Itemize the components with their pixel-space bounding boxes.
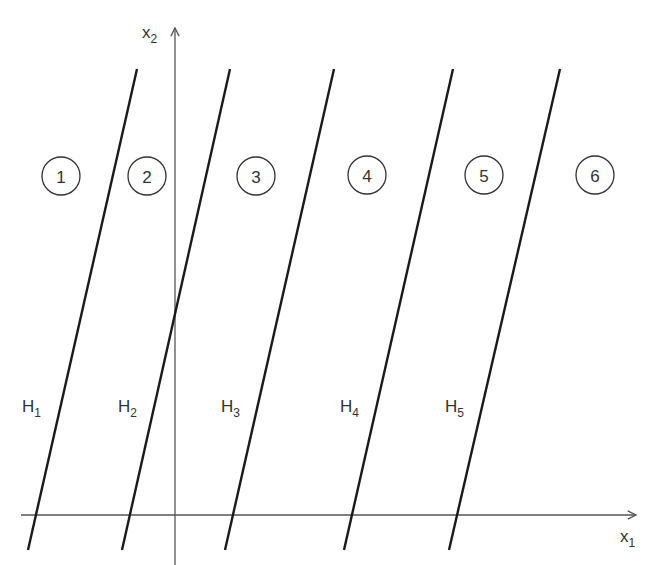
regions: 123456 <box>42 156 614 195</box>
hyperplane-label-h2: H2 <box>118 397 137 420</box>
region-marker-3: 3 <box>237 157 275 195</box>
axes <box>21 28 636 565</box>
region-number: 3 <box>251 168 260 187</box>
region-number: 6 <box>590 167 599 186</box>
x2-axis-label: x2 <box>142 23 158 46</box>
hyperplane-h4 <box>344 69 453 550</box>
region-number: 2 <box>142 168 151 187</box>
hyperplane-h2 <box>122 69 230 550</box>
hyperplane-h1 <box>28 69 137 550</box>
labels: x1x2H1H2H3H4H5 <box>22 23 636 550</box>
hyperplane-label-h1: H1 <box>22 397 41 420</box>
hyperplane-h5 <box>449 69 560 550</box>
region-marker-1: 1 <box>42 157 80 195</box>
region-marker-2: 2 <box>128 157 166 195</box>
x1-axis-label: x1 <box>620 527 636 550</box>
region-number: 5 <box>479 167 488 186</box>
hyperplane-diagram: 123456 x1x2H1H2H3H4H5 <box>0 0 659 565</box>
hyperplane-label-h4: H4 <box>340 397 359 420</box>
hyperplane-label-h5: H5 <box>445 397 464 420</box>
region-marker-4: 4 <box>348 156 386 194</box>
region-marker-5: 5 <box>465 156 503 194</box>
hyperplane-h3 <box>225 69 334 550</box>
hyperplanes <box>28 69 560 550</box>
region-number: 4 <box>362 167 371 186</box>
hyperplane-label-h3: H3 <box>221 397 240 420</box>
region-number: 1 <box>56 168 65 187</box>
region-marker-6: 6 <box>576 156 614 194</box>
